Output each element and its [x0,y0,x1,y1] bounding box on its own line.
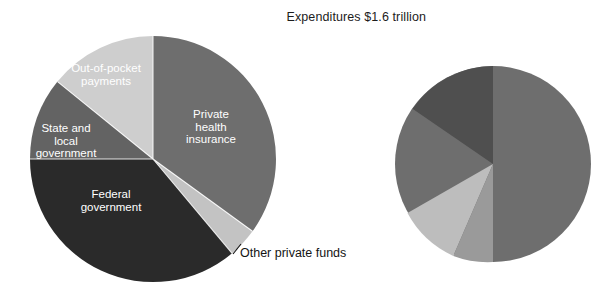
chart-title: Expenditures $1.6 trillion [287,10,426,24]
pie-callout-other-private-funds: Other private funds [240,246,346,260]
secondary-pie-svg [393,64,593,264]
secondary-pie-chart: P [393,64,593,264]
